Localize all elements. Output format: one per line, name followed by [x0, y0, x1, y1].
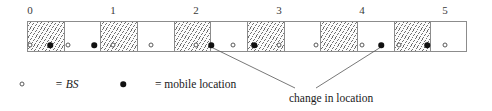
base-station-marker — [28, 43, 33, 48]
base-station-marker — [314, 43, 319, 48]
legend: = BS = mobile location — [0, 76, 492, 96]
mobile-location-marker — [424, 42, 430, 48]
base-station-marker — [397, 43, 402, 48]
mobile-location-marker — [208, 42, 214, 48]
base-station-marker — [111, 43, 116, 48]
base-station-marker — [231, 43, 236, 48]
legend-mobile-icon — [120, 81, 126, 87]
base-station-marker — [149, 43, 154, 48]
base-station-marker — [66, 43, 71, 48]
mobile-location-marker — [91, 42, 97, 48]
base-station-marker — [277, 43, 282, 48]
legend-mobile-label: = mobile location — [155, 76, 236, 92]
base-station-marker — [360, 43, 365, 48]
legend-bs-icon — [20, 82, 25, 87]
base-station-marker — [194, 43, 199, 48]
mobile-location-marker — [47, 42, 53, 48]
legend-bs-label: = BS — [55, 76, 78, 92]
diagram-canvas: 0 1 2 3 4 5 change in location = BS = mo… — [0, 0, 492, 111]
base-station-marker — [443, 43, 448, 48]
mobile-location-marker — [378, 42, 384, 48]
mobile-location-marker — [251, 42, 257, 48]
